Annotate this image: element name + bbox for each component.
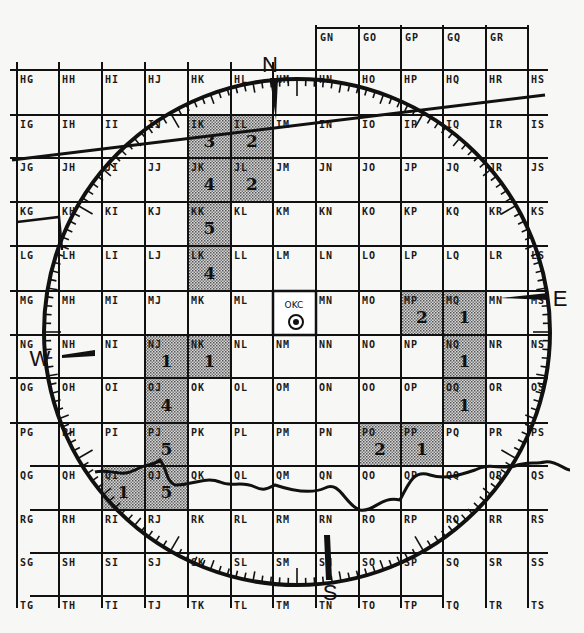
cell-label: NM <box>276 339 290 350</box>
cell-label: QM <box>276 470 290 481</box>
cell-label: IK <box>191 119 205 130</box>
station-label: OKC <box>285 300 304 310</box>
cell-label: QO <box>362 470 376 481</box>
cell-label: QH <box>62 470 76 481</box>
cell-label: LK <box>191 250 205 261</box>
cell-count: 4 <box>204 263 216 283</box>
cell-count: 2 <box>416 307 428 327</box>
cell-label: MP <box>404 295 418 306</box>
cell-label: GO <box>363 32 377 43</box>
cell-label: JN <box>319 162 333 173</box>
cell-label: OL <box>234 382 248 393</box>
cell-label: PO <box>362 427 376 438</box>
cell-label: IO <box>362 119 376 130</box>
cell-count: 4 <box>161 395 173 415</box>
cell-label: II <box>105 119 119 130</box>
cell-label: LM <box>276 250 290 261</box>
cell-label: HG <box>20 74 34 85</box>
cell-label: KR <box>489 206 503 217</box>
cell-label: MN <box>319 295 333 306</box>
boundary-line <box>12 95 545 160</box>
cell-label: PI <box>105 427 119 438</box>
cell-label: ML <box>234 295 248 306</box>
cell-label: NP <box>404 339 418 350</box>
cell-count: 1 <box>459 307 471 327</box>
cell-label: RP <box>404 514 418 525</box>
cell-count: 1 <box>204 351 216 371</box>
cell-label: QS <box>531 470 545 481</box>
cell-label: IG <box>20 119 34 130</box>
cell-label: KS <box>531 206 545 217</box>
cell-label: HK <box>191 74 205 85</box>
south-label: S <box>323 580 338 605</box>
cell-label: PJ <box>148 427 162 438</box>
cell-label: SM <box>276 557 290 568</box>
cell-label: PS <box>531 427 545 438</box>
cell-label: PK <box>191 427 205 438</box>
cell-label: QJ <box>148 470 162 481</box>
cell-count: 5 <box>161 439 173 459</box>
cell-label: GR <box>490 32 504 43</box>
cell-label: QG <box>20 470 34 481</box>
cell-label: LP <box>404 250 418 261</box>
cell-label: LI <box>105 250 119 261</box>
cell-label: NI <box>105 339 119 350</box>
cell-label: RN <box>319 514 333 525</box>
cell-label: JJ <box>148 162 162 173</box>
cell-label: NH <box>62 339 76 350</box>
cell-label: JO <box>362 162 376 173</box>
east-pointer <box>500 293 548 300</box>
cell-label: JM <box>276 162 290 173</box>
cell-label: NR <box>489 339 503 350</box>
cell-label: MG <box>20 295 34 306</box>
cell-label: KP <box>404 206 418 217</box>
cell-label: TK <box>191 600 205 611</box>
cell-label: LR <box>489 250 503 261</box>
cell-label: SL <box>234 557 248 568</box>
cell-label: OJ <box>148 382 162 393</box>
cell-label: RO <box>362 514 376 525</box>
west-pointer <box>62 350 95 358</box>
cell-label: RJ <box>148 514 162 525</box>
cell-label: MH <box>62 295 76 306</box>
cell-count: 1 <box>118 482 130 502</box>
cell-label: ON <box>319 382 333 393</box>
cell-label: QL <box>234 470 248 481</box>
cell-label: OP <box>404 382 418 393</box>
cell-label: SG <box>20 557 34 568</box>
cell-label: GN <box>320 32 334 43</box>
cell-count: 2 <box>374 439 386 459</box>
cell-label: TP <box>404 600 418 611</box>
cell-label: NL <box>234 339 248 350</box>
cell-count: 1 <box>416 439 428 459</box>
cell-label: HI <box>105 74 119 85</box>
cell-label: IR <box>489 119 503 130</box>
cell-label: KG <box>20 206 34 217</box>
cell-label: RG <box>20 514 34 525</box>
cell-label: SJ <box>148 557 162 568</box>
cell-label: LL <box>234 250 248 261</box>
cell-label: SH <box>62 557 76 568</box>
cell-label: RR <box>489 514 503 525</box>
cell-count: 2 <box>246 174 258 194</box>
cell-label: TQ <box>446 600 460 611</box>
cell-label: HH <box>62 74 76 85</box>
cell-label: OK <box>191 382 205 393</box>
cell-label: TL <box>234 600 248 611</box>
cell-count: 1 <box>459 351 471 371</box>
east-label: E <box>553 286 568 311</box>
cell-label: RM <box>276 514 290 525</box>
cell-label: PM <box>276 427 290 438</box>
cell-label: SQ <box>446 557 460 568</box>
cell-count: 1 <box>161 351 173 371</box>
cell-label: HP <box>404 74 418 85</box>
cell-label: TJ <box>148 600 162 611</box>
cell-count: 1 <box>459 395 471 415</box>
cell-label: KK <box>191 206 205 217</box>
station-dot-icon <box>293 319 299 325</box>
cell-label: JS <box>531 162 545 173</box>
cell-label: IS <box>531 119 545 130</box>
cell-label: RI <box>105 514 119 525</box>
cell-label: RK <box>191 514 205 525</box>
cell-label: PQ <box>446 427 460 438</box>
